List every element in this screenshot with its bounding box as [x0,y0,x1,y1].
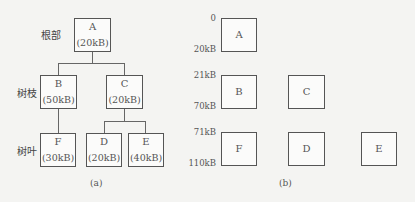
tree-node-d: D (20kB) [86,133,122,167]
block-name: C [303,86,311,98]
edge-a-down [92,52,93,63]
edge-c-bar [104,121,146,122]
edge-b-f [58,109,59,133]
node-size: (20kB) [108,94,140,106]
block-name: A [235,29,242,41]
address-tick-0: 0 [180,13,216,23]
node-size: (40kB) [130,152,162,164]
node-name: A [89,21,96,33]
node-name: D [100,136,108,148]
memory-block-c: C [288,75,325,109]
block-name: D [302,143,310,155]
edge-to-d [104,121,105,133]
edge-to-e [145,121,146,133]
node-size: (20kB) [88,152,120,164]
edge-to-c [124,63,125,75]
edge-a-bar [58,63,125,64]
tree-node-b: B (50kB) [40,75,77,109]
memory-block-a: A [221,18,257,52]
block-name: E [375,143,382,155]
memory-block-e: E [361,132,397,166]
address-tick-71kb: 71kB [180,127,216,137]
address-tick-21kb: 21kB [180,70,216,80]
edge-to-b [58,63,59,75]
block-name: F [236,143,243,155]
tree-node-a: A (20kB) [74,18,111,52]
tree-node-f: F (30kB) [40,133,76,167]
edge-c-down [124,109,125,121]
memory-block-b: B [221,75,257,109]
level-label-root: 根部 [41,27,61,42]
node-size: (50kB) [42,94,74,106]
node-name: C [121,78,129,90]
memory-block-f: F [221,132,257,166]
tree-node-c: C (20kB) [106,75,143,109]
address-tick-110kb: 110kB [180,158,216,168]
address-tick-20kb: 20kB [180,44,216,54]
memory-block-d: D [288,132,325,166]
caption-b: (b) [279,178,292,188]
node-name: E [142,136,149,148]
node-name: B [55,78,62,90]
tree-node-e: E (40kB) [128,133,164,167]
block-name: B [235,86,242,98]
node-size: (30kB) [42,152,74,164]
address-tick-70kb: 70kB [180,101,216,111]
node-size: (20kB) [76,37,108,49]
level-label-leaf: 树叶 [17,143,37,158]
node-name: F [55,136,62,148]
level-label-branch: 树枝 [17,85,37,100]
caption-a: (a) [90,178,102,188]
